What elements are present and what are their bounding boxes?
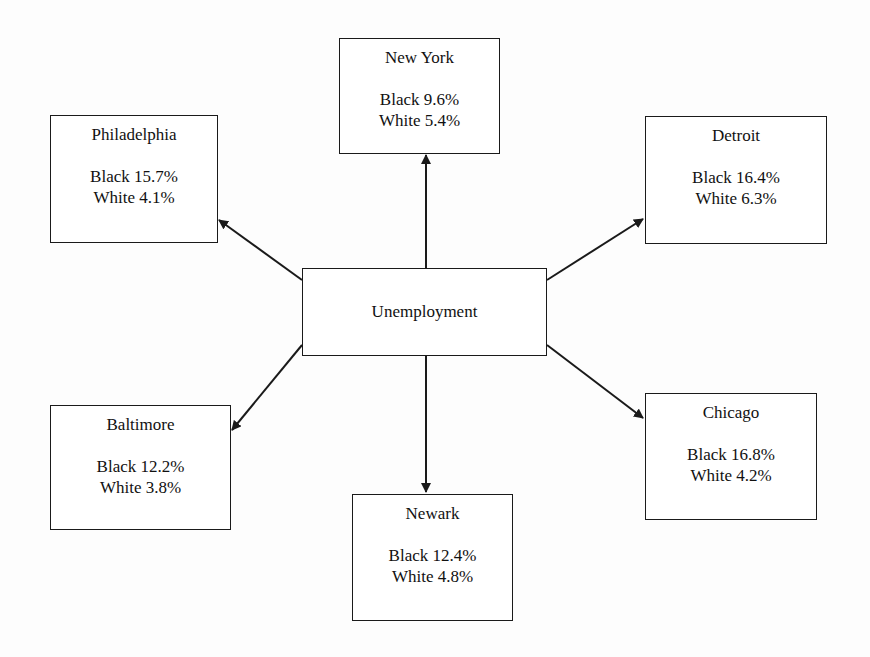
black-rate: Black 15.7%: [51, 166, 217, 187]
arrow-to-philadelphia: [219, 220, 302, 280]
city-node-detroit: Detroit Black 16.4% White 6.3%: [645, 116, 827, 244]
black-rate: Black 12.2%: [51, 456, 230, 477]
city-name: New York: [340, 47, 499, 68]
black-rate: Black 12.4%: [353, 545, 512, 566]
city-stats: Black 16.4% White 6.3%: [646, 167, 826, 209]
city-stats: Black 9.6% White 5.4%: [340, 89, 499, 131]
white-rate: White 3.8%: [51, 477, 230, 498]
black-rate: Black 9.6%: [340, 89, 499, 110]
black-rate: Black 16.4%: [646, 167, 826, 188]
city-name: Newark: [353, 503, 512, 524]
center-node-unemployment: Unemployment: [302, 268, 547, 356]
white-rate: White 6.3%: [646, 188, 826, 209]
city-node-philadelphia: Philadelphia Black 15.7% White 4.1%: [50, 115, 218, 243]
white-rate: White 4.8%: [353, 566, 512, 587]
city-node-baltimore: Baltimore Black 12.2% White 3.8%: [50, 405, 231, 530]
city-name: Chicago: [646, 402, 816, 423]
center-node-label: Unemployment: [372, 302, 478, 322]
arrow-to-chicago: [547, 345, 643, 418]
city-stats: Black 16.8% White 4.2%: [646, 444, 816, 486]
arrow-to-detroit: [547, 219, 643, 280]
white-rate: White 4.2%: [646, 465, 816, 486]
arrow-to-baltimore: [232, 345, 302, 430]
city-name: Detroit: [646, 125, 826, 146]
city-node-newark: Newark Black 12.4% White 4.8%: [352, 494, 513, 621]
city-stats: Black 12.2% White 3.8%: [51, 456, 230, 498]
city-name: Baltimore: [51, 414, 230, 435]
city-node-chicago: Chicago Black 16.8% White 4.2%: [645, 393, 817, 520]
black-rate: Black 16.8%: [646, 444, 816, 465]
diagram-canvas: Unemployment New York Black 9.6% White 5…: [0, 0, 870, 657]
city-stats: Black 15.7% White 4.1%: [51, 166, 217, 208]
white-rate: White 5.4%: [340, 110, 499, 131]
city-name: Philadelphia: [51, 124, 217, 145]
city-stats: Black 12.4% White 4.8%: [353, 545, 512, 587]
city-node-new-york: New York Black 9.6% White 5.4%: [339, 38, 500, 154]
white-rate: White 4.1%: [51, 187, 217, 208]
